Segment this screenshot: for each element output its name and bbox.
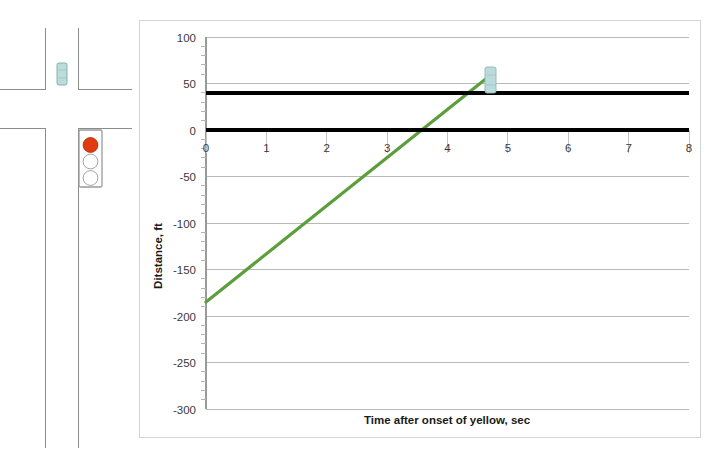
y-tick-label: -300 xyxy=(173,404,196,416)
intersection-diagram xyxy=(0,0,132,454)
vehicle-marker-body xyxy=(485,67,496,93)
vehicle-marker xyxy=(485,67,496,93)
y-axis-minor-ticks xyxy=(201,46,206,399)
x-tick-label: 2 xyxy=(324,142,330,154)
chart-panel: 100 50 0 -50 -100 -150 -200 -250 -300 0 … xyxy=(139,20,701,438)
green-lamp xyxy=(83,171,98,186)
x-tick-label: 7 xyxy=(625,142,631,154)
x-tick-label: 5 xyxy=(505,142,511,154)
x-tick-label: 6 xyxy=(565,142,571,154)
y-tick-label: 100 xyxy=(177,32,196,44)
y-tick-label: 0 xyxy=(190,125,196,137)
y-tick-label: -200 xyxy=(173,311,196,323)
road-edges xyxy=(0,28,132,448)
y-tick-label: -50 xyxy=(179,171,196,183)
y-tick-label: 50 xyxy=(183,78,196,90)
approaching-vehicle xyxy=(57,63,67,85)
vehicle-body xyxy=(57,63,67,85)
y-tick-label: -100 xyxy=(173,218,196,230)
distance-vs-time-chart: 100 50 0 -50 -100 -150 -200 -250 -300 0 … xyxy=(140,21,702,439)
y-axis-tick-labels: 100 50 0 -50 -100 -150 -200 -250 -300 xyxy=(173,32,196,416)
road-edge-southwest xyxy=(0,129,46,449)
yellow-lamp xyxy=(83,154,98,169)
road-edge-northeast xyxy=(79,28,133,90)
red-lamp xyxy=(83,138,98,153)
y-tick-label: -150 xyxy=(173,264,196,276)
x-tick-label: 8 xyxy=(686,142,692,154)
x-tick-label: 0 xyxy=(203,142,209,154)
x-tick-label: 3 xyxy=(384,142,390,154)
y-axis-title: Ditstance, ft xyxy=(152,223,164,289)
road-edge-northwest xyxy=(0,28,46,90)
traffic-signal-head xyxy=(79,130,102,187)
x-axis-title: Time after onset of yellow, sec xyxy=(364,414,531,426)
y-tick-label: -250 xyxy=(173,357,196,369)
x-tick-label: 1 xyxy=(263,142,269,154)
x-tick-label: 4 xyxy=(444,142,451,154)
